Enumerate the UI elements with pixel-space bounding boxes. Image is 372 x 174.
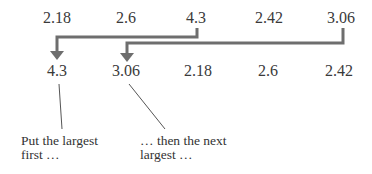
original-value-0: 2.18 — [43, 10, 71, 26]
arrowhead-icon — [50, 51, 64, 60]
original-value-2: 4.3 — [186, 10, 206, 26]
callout-line-second — [129, 84, 165, 129]
sorted-value-0: 4.3 — [47, 63, 67, 79]
arrow-next-largest-to-second — [120, 28, 343, 62]
caption-second: … then the next largest … — [140, 134, 227, 162]
original-value-1: 2.6 — [116, 10, 136, 26]
original-value-3: 2.42 — [255, 10, 283, 26]
sorted-value-1: 3.06 — [112, 63, 140, 79]
original-value-4: 3.06 — [327, 10, 355, 26]
sorted-value-2: 2.18 — [184, 63, 212, 79]
arrowhead-icon — [120, 53, 134, 62]
caption-first: Put the largest first … — [21, 134, 98, 162]
sorted-value-3: 2.6 — [258, 63, 278, 79]
sorting-diagram: 2.18 2.6 4.3 2.42 3.06 4.3 3.06 2.18 2.6… — [0, 0, 372, 174]
sorted-value-4: 2.42 — [325, 63, 353, 79]
callout-line-first — [59, 84, 62, 129]
